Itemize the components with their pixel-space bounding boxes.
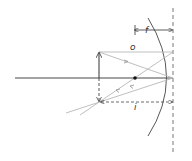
object-distance-label: o [130, 42, 136, 52]
ray-diagram: f o i [0, 0, 192, 161]
focal-point [133, 76, 137, 80]
light-rays [66, 52, 173, 115]
concave-mirror [148, 18, 167, 136]
image-distance-label: i [134, 102, 137, 112]
